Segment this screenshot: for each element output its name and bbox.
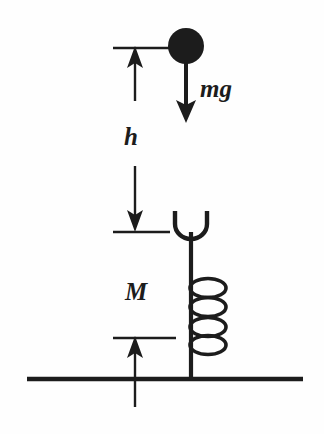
- height-arrow-down: [127, 166, 143, 232]
- height-arrow-up: [127, 46, 143, 101]
- physics-diagram: h M mg: [0, 0, 324, 434]
- weight-force-label: mg: [200, 76, 232, 101]
- weight-force-arrow: [176, 60, 196, 123]
- spring-coils-icon: [190, 279, 226, 355]
- ball-mass-icon: [168, 28, 204, 64]
- mass-height-label: M: [125, 279, 147, 304]
- diagram-canvas: [0, 0, 324, 434]
- height-label: h: [124, 124, 138, 149]
- mass-height-arrow-up: [127, 336, 143, 407]
